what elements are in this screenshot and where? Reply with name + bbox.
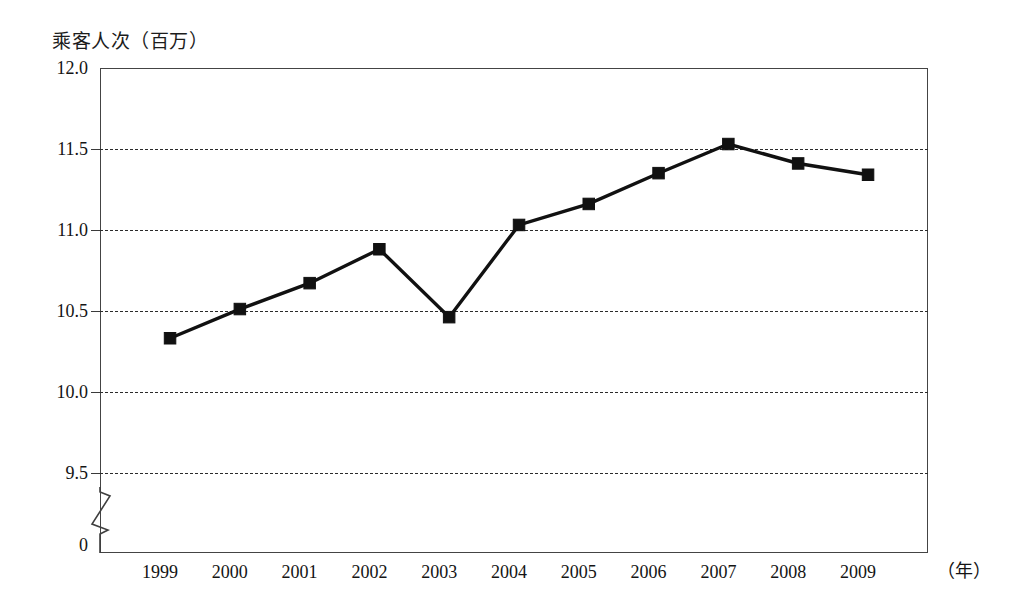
line-chart: 乘客人次（百万） 12.011.511.010.510.09.50 199920…: [0, 0, 1018, 615]
y-axis-tick-mark: [91, 392, 100, 393]
x-axis-tick-label: 2001: [260, 562, 340, 582]
y-axis-tick-label-wrap: 11.0: [32, 221, 88, 239]
y-axis-tick-label-wrap: 12.0: [32, 59, 88, 77]
x-axis-unit-label: （年）: [937, 561, 991, 581]
gridline: [100, 149, 928, 150]
x-axis-tick-label: 2004: [469, 562, 549, 582]
gridline: [100, 311, 928, 312]
y-axis-tick-label-wrap: 9.5: [32, 464, 88, 482]
y-axis-tick-label: 9.5: [32, 464, 88, 482]
y-axis-tick-label-wrap: 11.5: [32, 140, 88, 158]
gridline: [100, 230, 928, 231]
x-axis-tick-label: 2000: [190, 562, 270, 582]
y-axis-tick-label: 10.0: [32, 383, 88, 401]
x-axis-tick-label: 2005: [539, 562, 619, 582]
x-axis-tick-label: 2007: [678, 562, 758, 582]
x-axis-tick-label: 2002: [329, 562, 409, 582]
y-axis-tick-mark: [91, 311, 100, 312]
y-axis-title: 乘客人次（百万）: [52, 26, 208, 53]
y-axis-tick-label: 11.5: [32, 140, 88, 158]
x-axis-tick-label: 2006: [609, 562, 689, 582]
y-axis-tick-label: 11.0: [32, 221, 88, 239]
x-axis-tick-label: 2003: [399, 562, 479, 582]
gridline: [100, 392, 928, 393]
y-axis-tick-mark: [91, 230, 100, 231]
y-axis-tick-mark: [91, 149, 100, 150]
y-axis-tick-label: 10.5: [32, 302, 88, 320]
y-axis-tick-mark: [91, 473, 100, 474]
x-axis-tick-label: 2008: [748, 562, 828, 582]
y-axis-tick-label-wrap: 0: [32, 536, 88, 554]
y-axis-tick-label: 12.0: [32, 59, 88, 77]
x-axis-tick-label: 2009: [818, 562, 898, 582]
y-axis-tick-label-wrap: 10.0: [32, 383, 88, 401]
gridline: [100, 473, 928, 474]
y-axis-tick-label-wrap: 10.5: [32, 302, 88, 320]
x-axis-tick-label: 1999: [120, 562, 200, 582]
y-axis-tick-label: 0: [32, 536, 88, 554]
